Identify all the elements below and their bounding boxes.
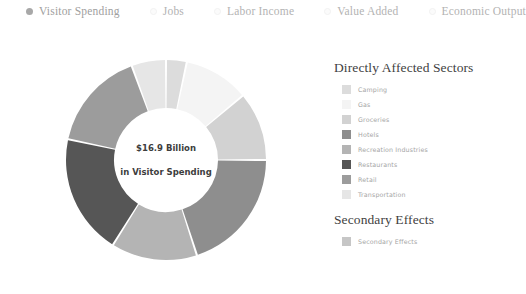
legend-item-camping[interactable]: Camping (342, 85, 481, 94)
metric-option-economic-output[interactable]: Economic Output (429, 5, 526, 17)
radio-unselected-icon[interactable] (324, 8, 331, 15)
metric-option-jobs[interactable]: Jobs (150, 5, 184, 17)
legend-secondary-list: Secondary Effects (334, 237, 481, 246)
legend-item-restaurants[interactable]: Restaurants (342, 160, 481, 169)
donut-slice-retail[interactable] (68, 66, 147, 148)
metric-option-visitor-spending[interactable]: Visitor Spending (26, 5, 120, 17)
legend-item-label: Camping (358, 86, 387, 93)
legend-item-recreation-industries[interactable]: Recreation Industries (342, 145, 481, 154)
legend-primary-title: Directly Affected Sectors (334, 60, 481, 76)
legend-color-swatch (342, 237, 351, 246)
legend-item-label: Transportation (358, 191, 406, 198)
donut-slice-hotels[interactable] (183, 161, 266, 255)
legend-item-gas[interactable]: Gas (342, 100, 481, 109)
metric-option-labor-income[interactable]: Labor Income (214, 5, 294, 17)
legend-item-label: Groceries (358, 116, 389, 123)
legend-color-swatch (342, 85, 351, 94)
legend-color-swatch (342, 115, 351, 124)
legend-item-secondary-effects[interactable]: Secondary Effects (342, 237, 481, 246)
legend-item-retail[interactable]: Retail (342, 175, 481, 184)
metric-option-label: Value Added (337, 5, 398, 17)
legend-item-label: Secondary Effects (358, 238, 417, 245)
legend-color-swatch (342, 145, 351, 154)
legend-item-label: Restaurants (358, 161, 397, 168)
metric-option-label: Economic Output (442, 5, 526, 17)
legend-primary-list: CampingGasGroceriesHotelsRecreation Indu… (334, 85, 481, 199)
metric-selector-bar: Visitor SpendingJobsLabor IncomeValue Ad… (0, 0, 481, 22)
legend-item-label: Retail (358, 176, 377, 183)
legend-item-hotels[interactable]: Hotels (342, 130, 481, 139)
metric-option-label: Jobs (163, 5, 184, 17)
legend-color-swatch (342, 175, 351, 184)
legend-item-groceries[interactable]: Groceries (342, 115, 481, 124)
legend-item-label: Recreation Industries (358, 146, 428, 153)
radio-unselected-icon[interactable] (429, 8, 436, 15)
legend-color-swatch (342, 100, 351, 109)
radio-unselected-icon[interactable] (214, 8, 221, 15)
metric-option-value-added[interactable]: Value Added (324, 5, 398, 17)
legend-color-swatch (342, 190, 351, 199)
metric-option-label: Visitor Spending (39, 5, 120, 17)
legend-secondary-title: Secondary Effects (334, 212, 481, 228)
radio-unselected-icon[interactable] (150, 8, 157, 15)
legend-item-label: Hotels (358, 131, 379, 138)
donut-chart-svg (58, 52, 274, 268)
legend-panel: Directly Affected Sectors CampingGasGroc… (334, 60, 481, 252)
legend-color-swatch (342, 130, 351, 139)
metric-option-label: Labor Income (227, 5, 294, 17)
legend-item-transportation[interactable]: Transportation (342, 190, 481, 199)
legend-color-swatch (342, 160, 351, 169)
radio-selected-icon[interactable] (26, 8, 33, 15)
legend-item-label: Gas (358, 101, 370, 108)
donut-chart: $16.9 Billion in Visitor Spending (58, 52, 274, 268)
